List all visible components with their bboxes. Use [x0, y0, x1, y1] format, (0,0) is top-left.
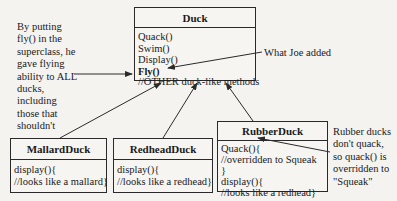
- note-line: gave flying: [17, 58, 77, 70]
- note-line: including: [17, 95, 77, 107]
- redhead-duck-class: RedheadDuck display(){ //looks like a re…: [113, 138, 213, 193]
- method-display-open: display(){: [221, 176, 324, 187]
- rubber-duck-class: RubberDuck Quack(){ //overridden to Sque…: [217, 121, 328, 192]
- redhead-duck-class-name: RedheadDuck: [114, 139, 212, 160]
- mallard-duck-class: MallardDuck display(){ //looks like a ma…: [10, 138, 107, 193]
- method-display-open: display(){: [117, 164, 209, 176]
- note-line: don't quack,: [333, 138, 391, 150]
- redhead-duck-methods: display(){ //looks like a redhead}: [114, 160, 212, 189]
- note-line: fly() in the: [17, 33, 77, 45]
- note-line: ducks,: [17, 83, 77, 95]
- method-display: Display(): [138, 54, 252, 66]
- note-rubber-quack: Rubber ducks don't quack, so quack() is …: [333, 126, 391, 188]
- note-line: By putting: [17, 21, 77, 33]
- note-line: overridden to: [333, 163, 391, 175]
- rubber-duck-methods: Quack(){ //overridden to Squeak } displa…: [218, 141, 327, 200]
- method-display-comment: //looks like a redhead}: [221, 187, 324, 198]
- note-line: Rubber ducks: [333, 126, 391, 138]
- rubber-duck-class-name: RubberDuck: [218, 122, 327, 141]
- method-display-comment: //looks like a redhead}: [117, 176, 209, 188]
- mallard-duck-class-name: MallardDuck: [11, 139, 106, 160]
- mallard-duck-methods: display(){ //looks like a mallard}: [11, 160, 106, 189]
- note-line: ability to ALL: [17, 71, 77, 83]
- method-quack-close: }: [221, 165, 324, 176]
- inheritance-redhead-to-duck: [163, 83, 197, 138]
- note-line: shouldn't: [17, 120, 77, 132]
- note-line: so quack() is: [333, 151, 391, 163]
- note-fly-superclass: By putting fly() in the superclass, he g…: [17, 21, 77, 133]
- note-line: "Squeak": [333, 176, 391, 188]
- duck-class-name: Duck: [135, 8, 255, 28]
- duck-class: Duck Quack() Swim() Display() Fly() //OT…: [134, 7, 256, 81]
- note-what-joe-added: What Joe added: [264, 47, 331, 59]
- note-line: superclass, he: [17, 46, 77, 58]
- method-quack-comment: //overridden to Squeak: [221, 154, 324, 165]
- method-other: //OTHER duck-like methods: [138, 76, 252, 88]
- method-quack: Quack(): [138, 31, 252, 43]
- method-display-open: display(){: [14, 164, 103, 176]
- duck-methods: Quack() Swim() Display() Fly() //OTHER d…: [135, 28, 255, 90]
- method-display-comment: //looks like a mallard}: [14, 176, 103, 188]
- method-quack-open: Quack(){: [221, 143, 324, 154]
- note-line: those that: [17, 108, 77, 120]
- method-swim: Swim(): [138, 43, 252, 55]
